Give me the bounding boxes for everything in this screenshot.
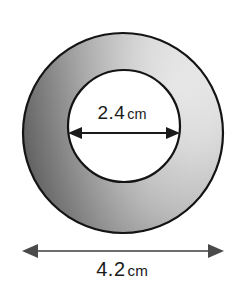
annulus-figure: 2.4cm 4.2cm xyxy=(0,0,244,291)
outer-diameter-label: 4.2cm xyxy=(0,259,244,279)
inner-diameter-value: 2.4 xyxy=(97,102,125,123)
outer-diameter-unit: cm xyxy=(128,262,148,279)
outer-diameter-value: 4.2 xyxy=(96,258,125,280)
inner-diameter-label: 2.4cm xyxy=(0,103,244,122)
inner-circle-hole xyxy=(68,70,180,182)
inner-diameter-unit: cm xyxy=(127,106,146,122)
annulus-drawing xyxy=(0,0,244,291)
